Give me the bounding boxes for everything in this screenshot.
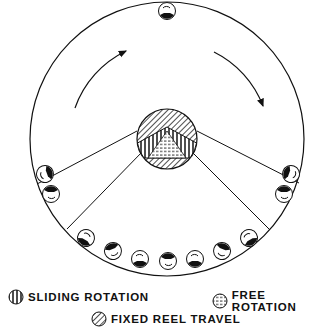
- legend-fixed-reel-travel: FIXED REEL TRAVEL: [91, 311, 240, 327]
- legend-label: SLIDING ROTATION: [28, 291, 149, 303]
- legend-free-rotation: FREE ROTATION: [212, 289, 333, 313]
- vertical-stripes-swatch-icon: [8, 289, 24, 305]
- legend-label: FIXED REEL TRAVEL: [111, 313, 240, 325]
- diagonal-stripes-swatch-icon: [91, 311, 107, 327]
- horizontal-dashes-swatch-icon: [212, 293, 228, 309]
- hub: [137, 109, 197, 169]
- legend-sliding-rotation: SLIDING ROTATION: [8, 289, 149, 305]
- rotation-arrows: [75, 51, 263, 108]
- drum-diagram: [0, 0, 333, 290]
- legend-label: FREE ROTATION: [232, 289, 333, 313]
